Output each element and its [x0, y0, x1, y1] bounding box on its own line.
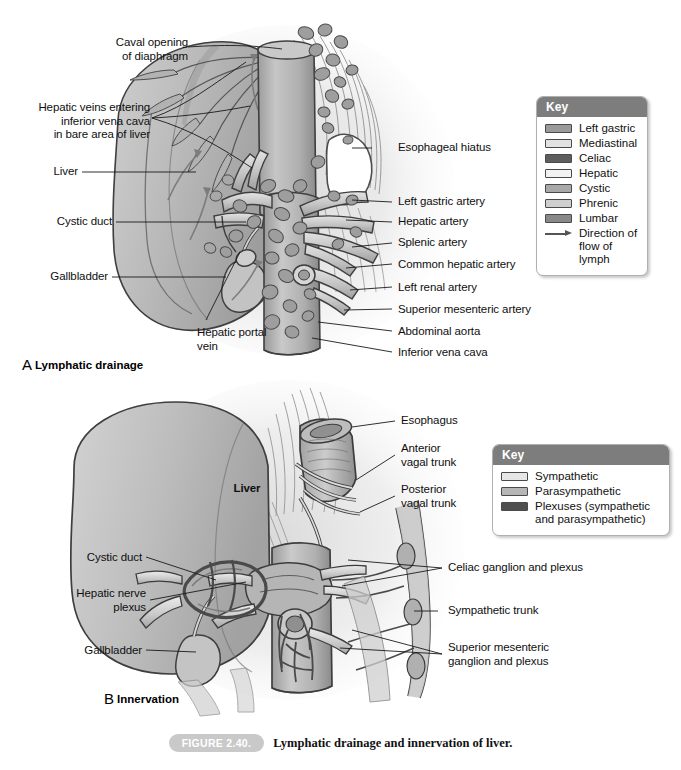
key-b-label-2: Plexuses (sympathetic and parasympatheti… — [535, 500, 650, 526]
label-common-hepatic-artery: Common hepatic artery — [398, 258, 515, 272]
key-a-swatch-6 — [545, 214, 572, 223]
figure-root: Caval opening of diaphragm Hepatic veins… — [0, 0, 681, 770]
label-hepatic-nerve-plexus: Hepatic nerve plexus — [28, 587, 146, 614]
key-a-label-6: Lumbar — [579, 212, 618, 225]
figure-number: FIGURE 2.40. — [169, 734, 265, 752]
key-a-body: Left gastric Mediastinal Celiac Hepatic … — [537, 117, 647, 275]
key-a-label-3: Hepatic — [579, 167, 618, 180]
key-a-item-6: Lumbar — [545, 212, 639, 225]
label-posterior-vagal-trunk: Posterior vagal trunk — [401, 483, 456, 510]
label-esophagus: Esophagus — [401, 414, 458, 428]
key-b-item-1: Parasympathetic — [501, 485, 661, 498]
key-a-title: Key — [537, 97, 647, 117]
panel-b-tag: BInnervation — [104, 690, 179, 707]
label-hepatic-veins: Hepatic veins entering inferior vena cav… — [4, 101, 150, 142]
liver-body-b — [71, 402, 270, 674]
caval-opening — [258, 41, 316, 59]
key-a-swatch-2 — [545, 154, 572, 163]
key-b-item-2: Plexuses (sympathetic and parasympatheti… — [501, 500, 661, 526]
label-abdominal-aorta: Abdominal aorta — [398, 325, 480, 339]
label-esophageal-hiatus: Esophageal hiatus — [398, 141, 491, 155]
key-a-label-2: Celiac — [579, 152, 611, 165]
key-a-label-7: Direction of flow of lymph — [579, 227, 639, 266]
label-left-renal-artery: Left renal artery — [398, 281, 477, 295]
key-a-swatch-3 — [545, 169, 572, 178]
panel-b-illustration — [0, 380, 681, 720]
label-anterior-vagal-trunk: Anterior vagal trunk — [401, 442, 456, 469]
key-a-label-5: Phrenic — [579, 197, 618, 210]
label-gallbladder-b: Gallbladder — [28, 644, 142, 658]
label-gallbladder-a: Gallbladder — [4, 270, 108, 284]
key-a-item-1: Mediastinal — [545, 137, 639, 150]
label-celiac-ganglion: Celiac ganglion and plexus — [448, 561, 583, 575]
label-inferior-vena-cava: Inferior vena cava — [398, 346, 488, 360]
key-b-item-0: Sympathetic — [501, 470, 661, 483]
panel-a-name: Lymphatic drainage — [35, 359, 143, 371]
figure-caption-text: Lymphatic drainage and innervation of li… — [273, 736, 512, 751]
key-b-swatch-2 — [501, 502, 528, 511]
key-b-swatch-0 — [501, 472, 528, 481]
flow-direction-arrow-icon — [545, 229, 572, 238]
key-lymphatic-drainage: Key Left gastric Mediastinal Celiac Hepa… — [536, 96, 648, 276]
label-cystic-duct-a: Cystic duct — [4, 215, 112, 229]
panel-b-letter: B — [104, 690, 114, 707]
key-a-item-5: Phrenic — [545, 197, 639, 210]
panel-a-letter: A — [22, 356, 32, 373]
key-a-item-4: Cystic — [545, 182, 639, 195]
label-left-gastric-artery: Left gastric artery — [398, 195, 485, 209]
key-b-body: Sympathetic Parasympathetic Plexuses (sy… — [493, 465, 669, 535]
key-a-item-3: Hepatic — [545, 167, 639, 180]
label-liver-b: Liver — [212, 482, 282, 496]
key-a-item-7: Direction of flow of lymph — [545, 227, 639, 266]
key-b-label-1: Parasympathetic — [535, 485, 621, 498]
key-a-swatch-4 — [545, 184, 572, 193]
label-sympathetic-trunk: Sympathetic trunk — [448, 604, 538, 618]
key-b-title: Key — [493, 445, 669, 465]
panel-a-tag: ALymphatic drainage — [22, 356, 143, 373]
label-hepatic-portal-vein: Hepatic portal vein — [197, 326, 293, 353]
key-a-label-4: Cystic — [579, 182, 610, 195]
label-caval-opening: Caval opening of diaphragm — [20, 36, 188, 63]
label-hepatic-artery: Hepatic artery — [398, 215, 468, 229]
key-b-label-0: Sympathetic — [535, 470, 598, 483]
key-a-label-1: Mediastinal — [579, 137, 637, 150]
key-a-swatch-1 — [545, 139, 572, 148]
label-superior-mesenteric-artery: Superior mesenteric artery — [398, 303, 531, 317]
key-b-swatch-1 — [501, 487, 528, 496]
key-a-item-2: Celiac — [545, 152, 639, 165]
label-splenic-artery: Splenic artery — [398, 236, 467, 250]
key-innervation: Key Sympathetic Parasympathetic Plexuses… — [492, 444, 670, 536]
label-liver-a: Liver — [10, 165, 78, 179]
key-a-swatch-0 — [545, 124, 572, 133]
key-a-swatch-5 — [545, 199, 572, 208]
figure-caption: FIGURE 2.40.Lymphatic drainage and inner… — [0, 733, 681, 752]
panel-b-name: Innervation — [117, 693, 179, 705]
key-a-label-0: Left gastric — [579, 122, 635, 135]
label-superior-mesenteric-ganglion: Superior mesenteric ganglion and plexus — [448, 641, 549, 668]
label-cystic-duct-b: Cystic duct — [28, 551, 142, 565]
key-a-item-0: Left gastric — [545, 122, 639, 135]
